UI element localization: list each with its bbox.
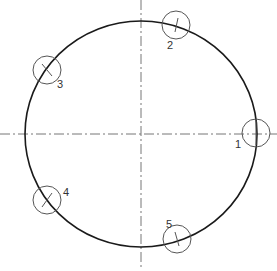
point-tick-2 bbox=[175, 18, 178, 32]
point-label-4: 4 bbox=[63, 186, 69, 198]
bolt-circle-diagram: 12345 bbox=[0, 0, 277, 271]
point-label-1: 1 bbox=[235, 138, 241, 150]
points-group: 12345 bbox=[33, 11, 270, 253]
point-tick-3 bbox=[42, 64, 52, 76]
point-label-2: 2 bbox=[167, 39, 173, 51]
point-label-5: 5 bbox=[166, 218, 172, 230]
point-tick-5 bbox=[175, 232, 179, 246]
point-label-3: 3 bbox=[57, 78, 63, 90]
